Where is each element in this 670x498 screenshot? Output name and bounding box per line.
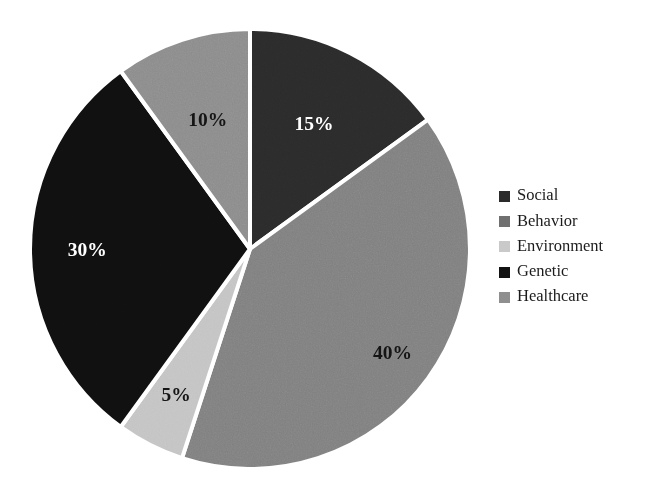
legend-item-behavior[interactable]: Behavior (499, 208, 659, 233)
pie-slice-label-environment: 5% (161, 384, 190, 405)
legend-swatch-genetic-icon (499, 267, 510, 278)
legend-swatch-healthcare-icon (499, 292, 510, 303)
legend-swatch-behavior-icon (499, 216, 510, 227)
legend-swatch-environment-icon (499, 241, 510, 252)
pie-slice-label-healthcare: 10% (188, 109, 227, 130)
pie-chart-svg: 15%40%5%30%10% (30, 29, 470, 469)
pie-chart-figure: 15%40%5%30%10% Social Behavior Envi (0, 0, 670, 498)
legend-label-genetic: Genetic (517, 263, 568, 280)
legend-label-behavior: Behavior (517, 213, 577, 230)
pie-slice-label-genetic: 30% (68, 239, 107, 260)
legend-item-healthcare[interactable]: Healthcare (499, 284, 659, 309)
legend-item-genetic[interactable]: Genetic (499, 259, 659, 284)
pie-slice-label-social: 15% (294, 113, 333, 134)
legend-item-environment[interactable]: Environment (499, 233, 659, 258)
pie-slice-label-behavior: 40% (373, 342, 412, 363)
chart-legend: Social Behavior Environment Genetic Heal… (499, 183, 659, 309)
legend-swatch-social-icon (499, 191, 510, 202)
pie-chart-plot-area: 15%40%5%30%10% (30, 29, 470, 469)
legend-label-healthcare: Healthcare (517, 288, 588, 305)
legend-label-social: Social (517, 187, 558, 204)
legend-label-environment: Environment (517, 238, 603, 255)
legend-item-social[interactable]: Social (499, 183, 659, 208)
